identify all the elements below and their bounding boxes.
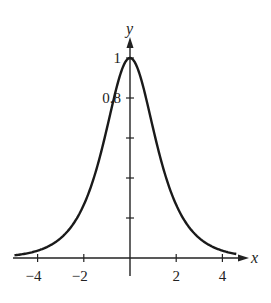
x-tick-label: 4 [219,268,227,284]
y-axis-label: y [124,20,134,38]
y-tick-label: 1 [114,50,122,66]
x-axis-arrow-icon [238,255,249,262]
chart: −4−224 0.81 x y [0,0,271,303]
curve-line [15,58,237,255]
x-axis [13,255,249,262]
y-axis-arrow-icon [127,37,134,48]
y-ticks: 0.81 [102,50,134,218]
x-axis-label: x [250,249,258,266]
x-tick-label: 2 [172,268,180,284]
x-tick-label: −2 [72,268,88,284]
y-axis [127,37,134,276]
x-tick-label: −4 [26,268,42,284]
